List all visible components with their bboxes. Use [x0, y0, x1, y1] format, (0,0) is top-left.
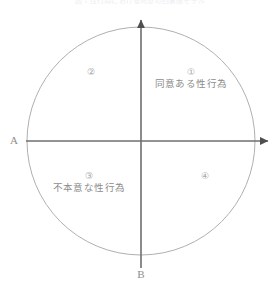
- quadrant-diagram-figure: 図 1 性行為における同意の四象限モデル ① 同意ある性行為 ② ③ 不本意な性…: [0, 0, 280, 290]
- quadrant-number-3: ③: [38, 170, 140, 182]
- quadrant-text-3: 不本意な性行為: [38, 182, 140, 195]
- axis-endpoint-label-a: A: [6, 134, 22, 146]
- quadrant-number-1: ①: [150, 66, 232, 78]
- quadrant-label-1: ① 同意ある性行為: [150, 66, 232, 91]
- quadrant-number-4: ④: [178, 170, 232, 182]
- quadrant-label-2: ②: [60, 66, 122, 78]
- quadrant-text-1: 同意ある性行為: [150, 78, 232, 91]
- diagram-canvas: [0, 0, 280, 290]
- quadrant-number-2: ②: [60, 66, 122, 78]
- quadrant-label-4: ④: [178, 170, 232, 182]
- quadrant-label-3: ③ 不本意な性行為: [38, 170, 140, 195]
- axis-endpoint-label-b: B: [133, 268, 149, 280]
